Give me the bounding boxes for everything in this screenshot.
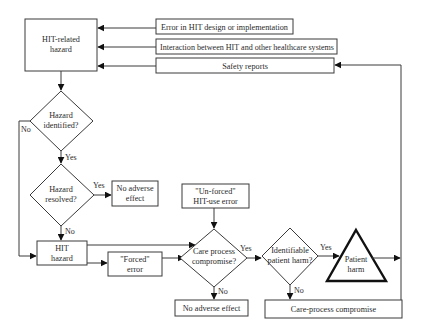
node-label: Identifiable <box>271 246 309 255</box>
node-hazard-identified: Hazard identified? <box>30 91 93 151</box>
node-hit-hazard: HIT hazard <box>37 241 87 265</box>
node-safety-reports: Safety reports <box>156 58 334 73</box>
node-label: resolved? <box>45 195 77 204</box>
node-label: Hazard <box>49 185 73 194</box>
node-no-adverse-effect-1: No adverse effect <box>112 181 158 206</box>
node-care-process-compromise: Care-process compromise <box>265 300 402 318</box>
node-label: compromise? <box>192 257 236 266</box>
node-label: No adverse effect <box>183 304 241 313</box>
edge-label: Yes <box>65 153 77 162</box>
node-label: effect <box>126 194 145 203</box>
node-label: Care process <box>193 247 235 256</box>
edge-label: Yes <box>320 243 332 252</box>
node-identifiable-patient-harm: Identifiable patient harm? <box>262 228 318 285</box>
node-label: patient harm? <box>268 256 313 265</box>
edge-label: No <box>21 125 31 134</box>
node-label: "Forced" <box>120 255 149 264</box>
node-label: Care-process compromise <box>291 305 377 314</box>
flowchart: HIT-related hazard Error in HIT design o… <box>0 0 423 332</box>
node-label: hazard <box>50 45 72 54</box>
node-care-process-compromise-question: Care process compromise? <box>180 229 247 287</box>
node-label: Safety reports <box>222 62 268 71</box>
node-no-adverse-effect-2: No adverse effect <box>175 300 248 316</box>
edge-label: Yes <box>93 181 105 190</box>
node-label: Interaction between HIT and other health… <box>160 43 334 52</box>
node-label: error <box>127 265 143 274</box>
node-error-hit-design: Error in HIT design or implementation <box>156 19 293 34</box>
node-label: Patient <box>345 255 368 264</box>
node-label: "Un-forced" <box>195 187 235 196</box>
node-hit-related-hazard: HIT-related hazard <box>25 19 97 71</box>
node-interaction: Interaction between HIT and other health… <box>156 39 337 54</box>
node-hazard-resolved: Hazard resolved? <box>30 164 94 226</box>
node-label: HIT-related <box>42 35 80 44</box>
node-label: HIT <box>55 244 69 253</box>
node-unforced-error: "Un-forced" HIT-use error <box>182 184 249 208</box>
node-label: hazard <box>51 254 73 263</box>
edge-label: No <box>294 286 304 295</box>
edge-label: Yes <box>240 244 252 253</box>
node-label: identified? <box>43 121 78 130</box>
edge-label: No <box>218 287 228 296</box>
edge-no-identified <box>19 121 36 256</box>
node-label: Hazard <box>49 111 73 120</box>
edge-label: No <box>65 227 75 236</box>
node-label: No adverse <box>116 184 153 193</box>
node-label: HIT-use error <box>193 197 238 206</box>
node-forced-error: "Forced" error <box>108 252 162 276</box>
node-label: harm <box>348 265 365 274</box>
node-label: Error in HIT design or implementation <box>161 23 288 32</box>
